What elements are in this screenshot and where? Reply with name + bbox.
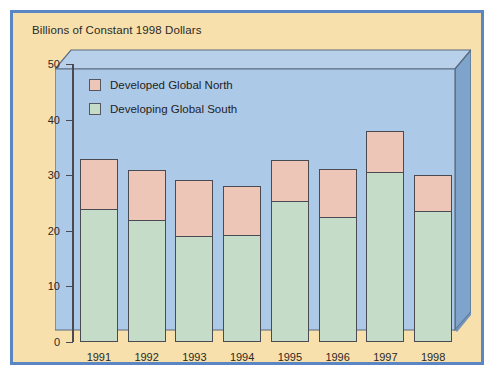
bar-segment-north-1998 — [414, 175, 452, 212]
legend-item-north: Developed Global North — [89, 75, 237, 94]
x-tick-label-1994: 1994 — [218, 351, 266, 363]
bar-segment-south-1993 — [175, 236, 213, 342]
enclosure-right-face — [455, 50, 471, 330]
x-tick-label-1996: 1996 — [314, 351, 362, 363]
chart-figure: Billions of Constant 1998 Dollars 010203… — [10, 10, 484, 365]
bar-segment-north-1995 — [271, 160, 309, 203]
bar-segment-south-1991 — [80, 209, 118, 342]
legend-label-north: Developed Global North — [110, 79, 233, 91]
bar-group-1996 — [319, 169, 357, 342]
x-tick-label-1998: 1998 — [409, 351, 457, 363]
bar-segment-south-1996 — [319, 217, 357, 342]
x-tick-label-1995: 1995 — [266, 351, 314, 363]
bar-group-1993 — [175, 180, 213, 342]
bar-segment-north-1996 — [319, 169, 357, 218]
bar-segment-north-1994 — [223, 186, 261, 235]
bar-group-1997 — [366, 131, 404, 342]
bar-segment-north-1992 — [128, 170, 166, 221]
legend-label-south: Developing Global South — [110, 103, 237, 115]
bar-segment-south-1998 — [414, 211, 452, 342]
legend-swatch-south-icon — [89, 103, 101, 115]
bar-segment-south-1994 — [223, 235, 261, 342]
bar-segment-north-1993 — [175, 180, 213, 238]
legend-item-south: Developing Global South — [89, 99, 237, 118]
bar-group-1992 — [128, 170, 166, 342]
x-tick-label-1997: 1997 — [361, 351, 409, 363]
bar-group-1994 — [223, 186, 261, 342]
bar-segment-south-1992 — [128, 220, 166, 342]
bar-group-1995 — [271, 160, 309, 342]
x-tick-label-1991: 1991 — [75, 351, 123, 363]
bar-segment-south-1995 — [271, 201, 309, 342]
x-tick-label-1993: 1993 — [170, 351, 218, 363]
x-tick-label-1992: 1992 — [123, 351, 171, 363]
legend-swatch-north-icon — [89, 79, 101, 91]
bar-segment-north-1997 — [366, 131, 404, 174]
bar-segment-south-1997 — [366, 172, 404, 342]
chart-title: Billions of Constant 1998 Dollars — [32, 24, 202, 36]
bar-group-1998 — [414, 175, 452, 342]
chart-legend: Developed Global North Developing Global… — [89, 75, 237, 123]
bar-group-1991 — [80, 159, 118, 342]
bar-segment-north-1991 — [80, 159, 118, 210]
